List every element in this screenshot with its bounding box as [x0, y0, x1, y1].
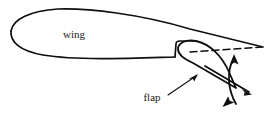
flap-chord-line: [205, 66, 249, 92]
airfoil-upper-surface: [11, 9, 263, 47]
flap-body: [178, 40, 236, 88]
figure-container: wing flap: [0, 0, 272, 120]
wing-flap-diagram: wing flap: [0, 0, 272, 120]
flap-leader-line: [168, 76, 196, 95]
wing-label: wing: [63, 28, 86, 40]
rotation-arrow-up-icon: [230, 54, 238, 65]
flap-label: flap: [143, 91, 161, 103]
airfoil-lower-surface: [11, 31, 175, 59]
retracted-flap-dashed-line: [190, 47, 262, 52]
